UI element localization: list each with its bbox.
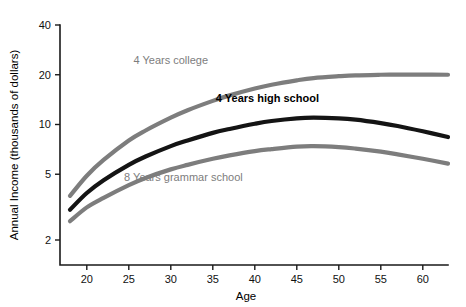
- x-tick-label: 50: [333, 273, 345, 285]
- y-tick-label: 5: [45, 168, 51, 180]
- x-tick-labels: 202530354045505560: [81, 273, 429, 285]
- axes-group: [55, 25, 448, 270]
- y-tick-label: 2: [45, 234, 51, 246]
- axis-lines: [60, 25, 448, 265]
- series-label: 4 Years high school: [216, 92, 319, 104]
- x-tick-label: 45: [291, 273, 303, 285]
- series-line: [70, 146, 448, 221]
- x-tick-label: 55: [375, 273, 387, 285]
- x-tick-label: 25: [123, 273, 135, 285]
- x-tick-label: 20: [81, 273, 93, 285]
- income-by-education-chart: 202530354045505560 25102040 4 Years coll…: [0, 0, 466, 307]
- x-tick-label: 60: [417, 273, 429, 285]
- chart-canvas: 202530354045505560 25102040 4 Years coll…: [0, 0, 466, 307]
- series-label: 8 Years grammar school: [124, 171, 243, 183]
- x-axis-title: Age: [236, 290, 256, 302]
- series-line: [70, 118, 448, 210]
- plot-area: 202530354045505560 25102040 4 Years coll…: [39, 19, 448, 285]
- y-tick-label: 40: [39, 19, 51, 31]
- y-tick-label: 10: [39, 118, 51, 130]
- y-axis-title: Annual Income (thousands of dollars): [8, 50, 20, 241]
- x-tick-label: 35: [207, 273, 219, 285]
- series-label: 4 Years college: [133, 54, 208, 66]
- x-tick-label: 40: [249, 273, 261, 285]
- y-tick-label: 20: [39, 69, 51, 81]
- y-tick-labels: 25102040: [39, 19, 51, 246]
- x-tick-label: 30: [165, 273, 177, 285]
